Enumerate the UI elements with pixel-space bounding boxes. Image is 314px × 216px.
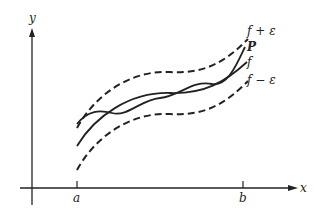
tick-a-label: a	[73, 191, 80, 205]
y-axis-arrow-icon	[29, 28, 35, 37]
polynomial-label: P	[246, 40, 257, 54]
lower-bound-curve	[77, 81, 248, 170]
tick-b-label: b	[239, 191, 247, 205]
lower-bound-label: f − ε	[246, 73, 276, 87]
upper-bound-label: f + ε	[246, 24, 276, 38]
y-axis-label: y	[28, 11, 36, 25]
x-axis-label: x	[300, 181, 307, 195]
approximation-diagram: y x a b f + ε P f f − ε	[0, 0, 314, 216]
function-curve	[77, 62, 247, 146]
polynomial-curve	[77, 47, 245, 124]
upper-bound-curve	[77, 39, 248, 128]
x-axis-arrow-icon	[288, 185, 298, 191]
function-label: f	[246, 55, 254, 69]
